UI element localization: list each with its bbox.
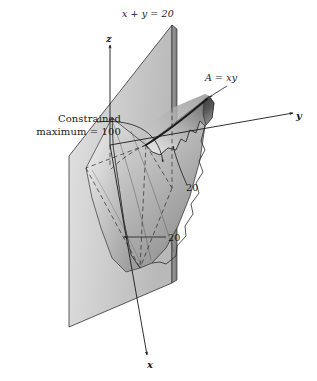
- constrained-maximum-line2: maximum = 100: [6, 126, 121, 139]
- figure-container: x + y = 20 A = xy z y x 20 20 Constraine…: [0, 0, 317, 381]
- y-intercept-tick-label: 20: [186, 182, 198, 194]
- surface-equation-label: A = xy: [205, 72, 237, 84]
- constrained-maximum-line1: Constrained: [6, 113, 121, 126]
- x-axis-label: x: [147, 359, 153, 372]
- z-axis-label: z: [106, 33, 112, 46]
- y-axis-label: y: [296, 110, 302, 123]
- surface-plot-svg: [0, 0, 317, 381]
- plane-equation-label: x + y = 20: [122, 8, 174, 20]
- surface-label-leader: [210, 86, 227, 97]
- x-intercept-tick-label: 20: [168, 232, 180, 244]
- constrained-maximum-callout: Constrained maximum = 100: [6, 113, 121, 138]
